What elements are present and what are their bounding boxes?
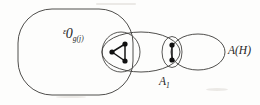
triangle-vertex-top-right (122, 41, 127, 46)
pair-graph (169, 42, 174, 62)
universe-label-base: ᵋ0 (63, 26, 73, 41)
set-diagram: ᵋ0g(j) A1 A(H) (0, 0, 260, 105)
triangle-vertex-bottom-right (122, 58, 127, 63)
a1-label-subscript: 1 (166, 81, 170, 90)
universe-label: ᵋ0g(j) (38, 26, 101, 44)
ah-region-outline (171, 34, 225, 70)
triangle-vertex-left (109, 49, 114, 54)
ah-label: A(H) (227, 44, 251, 57)
a1-label: A1 (139, 75, 184, 90)
pair-vertex-lower (169, 57, 174, 62)
triangle-graph (109, 41, 127, 63)
universe-region-outline (18, 9, 133, 95)
pair-vertex-upper (169, 42, 174, 47)
universe-label-subscript: g(j) (73, 34, 84, 43)
figure-container: ᵋ0g(j) A1 A(H) (0, 0, 260, 105)
small-left-region-outline (102, 32, 140, 72)
